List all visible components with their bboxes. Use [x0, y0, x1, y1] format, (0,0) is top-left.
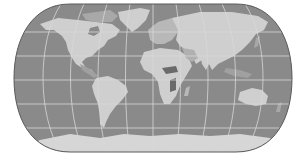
world-map	[0, 0, 306, 161]
world-map-svg	[0, 0, 306, 161]
